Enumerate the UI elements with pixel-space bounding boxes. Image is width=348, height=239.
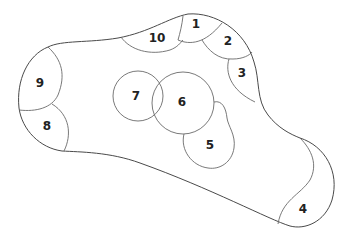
zone-label-5: 5 [206, 138, 214, 152]
zone-label-9: 9 [36, 76, 44, 90]
zone-label-10: 10 [149, 31, 166, 45]
zone-5-shape [183, 102, 234, 169]
zone-label-4: 4 [299, 202, 307, 216]
zone-label-8: 8 [43, 119, 51, 133]
zone-label-1: 1 [192, 17, 200, 31]
zone-8-boundary [52, 104, 68, 151]
zone-4-boundary [278, 138, 314, 224]
zone-label-2: 2 [224, 34, 232, 48]
zone-label-6: 6 [178, 95, 186, 109]
zone-label-3: 3 [238, 66, 246, 80]
zone-map-diagram: 1 2 3 4 5 6 7 8 9 10 [0, 0, 348, 239]
diagram-canvas: 1 2 3 4 5 6 7 8 9 10 [0, 0, 348, 239]
zone-label-7: 7 [132, 89, 140, 103]
